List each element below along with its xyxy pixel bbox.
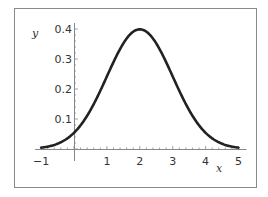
y-tick-label: 0.4 <box>55 23 73 36</box>
x-tick-label: 1 <box>103 155 110 168</box>
x-tick-label: 2 <box>136 155 143 168</box>
chart: −1123450.10.20.30.4 y x <box>0 0 268 197</box>
x-tick-label: 4 <box>202 155 209 168</box>
y-tick-label: 0.3 <box>55 53 73 66</box>
y-tick-label: 0.2 <box>55 83 73 96</box>
y-axis-label: y <box>31 27 39 40</box>
x-tick-label: 5 <box>235 155 242 168</box>
x-tick-label: −1 <box>33 155 49 168</box>
x-tick-label: 3 <box>169 155 176 168</box>
y-tick-label: 0.1 <box>55 113 73 126</box>
x-axis-label: x <box>216 162 223 175</box>
